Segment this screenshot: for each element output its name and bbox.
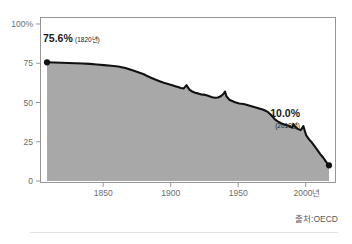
end-callout: 10.0% (2018년) xyxy=(270,107,300,130)
end-point-marker xyxy=(326,162,332,168)
y-tick-label-25: 25 xyxy=(24,137,34,147)
poverty-area-chart: 100% 75 50 25 0 1850 1900 1950 2000년 xyxy=(0,0,352,244)
start-point-marker xyxy=(44,59,50,65)
source-note: 출처:OECD xyxy=(295,214,338,224)
x-tick-label-1850: 1850 xyxy=(94,188,113,198)
chart-container: 100% 75 50 25 0 1850 1900 1950 2000년 xyxy=(0,0,352,244)
end-callout-year: (2018년) xyxy=(275,121,300,130)
y-tick-label-100: 100% xyxy=(11,19,33,29)
y-tick-label-50: 50 xyxy=(24,98,34,108)
y-axis-labels: 100% 75 50 25 0 xyxy=(11,19,33,186)
x-tick-label-1900: 1900 xyxy=(161,188,180,198)
start-callout-year: (1820년) xyxy=(75,35,100,44)
start-callout-value: 75.6% xyxy=(43,32,73,44)
end-callout-value: 10.0% xyxy=(270,107,300,119)
x-tick-label-2000: 2000년 xyxy=(294,188,321,198)
start-callout: 75.6% (1820년) xyxy=(43,32,100,44)
y-axis-ticks xyxy=(36,24,41,181)
x-axis-ticks xyxy=(103,183,306,188)
x-axis-labels: 1850 1900 1950 2000년 xyxy=(94,188,321,198)
poverty-chart-card: 100% 75 50 25 0 1850 1900 1950 2000년 xyxy=(0,0,352,244)
y-tick-label-75: 75 xyxy=(24,58,34,68)
x-tick-label-1950: 1950 xyxy=(229,188,248,198)
y-tick-label-0: 0 xyxy=(28,176,33,186)
